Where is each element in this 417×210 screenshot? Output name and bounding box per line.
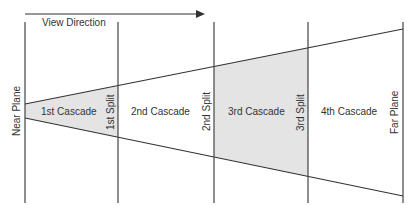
near-plane-label: Near Plane — [11, 86, 22, 136]
split-1-label: 1st Split — [105, 94, 116, 130]
cascade-diagram: View Direction 1st Cascade 2nd Cascade 3… — [0, 0, 417, 210]
cascade-2-label: 2nd Cascade — [131, 106, 190, 117]
cascade-1-label: 1st Cascade — [41, 106, 97, 117]
cascade-4-label: 4th Cascade — [321, 106, 378, 117]
far-plane-label: Far Plane — [389, 90, 400, 134]
cascade-3-label: 3rd Cascade — [228, 106, 285, 117]
split-3-label: 3rd Split — [295, 94, 306, 131]
view-direction-label: View Direction — [42, 17, 106, 28]
split-2-label: 2nd Split — [201, 92, 212, 131]
arrowhead-icon — [196, 10, 205, 18]
